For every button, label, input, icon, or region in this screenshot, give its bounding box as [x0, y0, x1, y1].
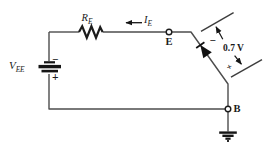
resistor-symbol: [79, 26, 103, 37]
diode-anode-triangle: [200, 45, 212, 58]
circuit-diagram: VEE RE IE E B 0.7 V − + − +: [0, 0, 264, 151]
emitter-terminal-circle: [166, 29, 172, 35]
voltage-arrow-lower: [235, 56, 242, 65]
resistor-label-sub: E: [88, 17, 92, 26]
battery-minus-sign: −: [52, 54, 58, 65]
battery-plus-sign: +: [52, 72, 59, 84]
current-label: IE: [144, 15, 152, 27]
source-label-sub: EE: [16, 65, 25, 74]
diode-voltage-label: 0.7 V: [223, 44, 244, 54]
voltage-arrow-upper: [216, 27, 223, 40]
current-label-sub: E: [148, 18, 152, 27]
source-label-base: V: [9, 59, 16, 71]
emitter-terminal-label: E: [166, 37, 173, 48]
emitter-diagonal-wire: [172, 32, 228, 106]
ground-symbol: [219, 133, 237, 141]
base-terminal-circle: [225, 106, 231, 112]
diode-minus-sign: −: [210, 35, 216, 46]
circuit-schematic: [0, 0, 264, 151]
base-terminal-label: B: [234, 104, 241, 115]
resistor-label: RE: [82, 13, 93, 25]
voltage-tick-lower: [231, 60, 262, 78]
left-bottom-wire: [49, 74, 225, 109]
source-label: VEE: [9, 60, 24, 73]
